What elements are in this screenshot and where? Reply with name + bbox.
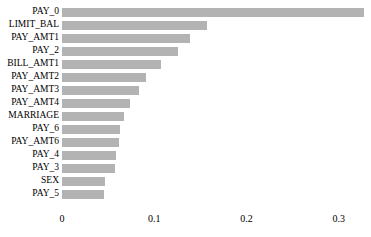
bar-fill bbox=[62, 177, 105, 186]
bar bbox=[62, 34, 190, 43]
bar-fill bbox=[62, 164, 115, 173]
bar-fill bbox=[62, 190, 104, 199]
bar bbox=[62, 73, 146, 82]
y-axis-tick-label: PAY_AMT3 bbox=[11, 85, 59, 94]
y-axis-tick-label: SEX bbox=[41, 176, 59, 185]
x-axis-tick-label: 0 bbox=[60, 213, 65, 224]
y-axis-tick-label: PAY_6 bbox=[32, 124, 59, 133]
y-axis-tick-label: BILL_AMT1 bbox=[7, 59, 59, 68]
bar bbox=[62, 21, 207, 30]
bar bbox=[62, 151, 116, 160]
y-axis-tick-label: PAY_2 bbox=[32, 46, 59, 55]
feature-importance-bar-chart: PAY_0LIMIT_BALPAY_AMT1PAY_2BILL_AMT1PAY_… bbox=[0, 0, 371, 237]
bar bbox=[62, 177, 105, 186]
bar bbox=[62, 125, 120, 134]
y-axis-tick-label: PAY_4 bbox=[32, 150, 59, 159]
y-axis-tick-label: PAY_3 bbox=[32, 163, 59, 172]
y-axis-tick-label: MARRIAGE bbox=[8, 111, 59, 120]
y-axis-tick-label: PAY_5 bbox=[32, 189, 59, 198]
bar-fill bbox=[62, 47, 178, 56]
bar bbox=[62, 86, 139, 95]
bar-fill bbox=[62, 21, 207, 30]
bar bbox=[62, 164, 115, 173]
y-axis-tick-label: LIMIT_BAL bbox=[9, 20, 59, 29]
bar bbox=[62, 8, 364, 17]
bar-fill bbox=[62, 60, 161, 69]
y-axis-tick-label: PAY_AMT6 bbox=[11, 137, 59, 146]
bar-fill bbox=[62, 86, 139, 95]
bar-fill bbox=[62, 99, 130, 108]
x-axis-tick-label: 0.1 bbox=[148, 213, 161, 224]
x-axis-tick-label: 0.3 bbox=[332, 213, 345, 224]
y-axis-tick-label: PAY_AMT1 bbox=[11, 33, 59, 42]
plot-area bbox=[62, 0, 371, 206]
bar bbox=[62, 99, 130, 108]
bar-fill bbox=[62, 138, 119, 147]
bar-fill bbox=[62, 8, 364, 17]
y-axis-tick-label: PAY_0 bbox=[32, 7, 59, 16]
bar-fill bbox=[62, 34, 190, 43]
y-axis-tick-label: PAY_AMT2 bbox=[11, 72, 59, 81]
bar bbox=[62, 112, 124, 121]
y-axis-category-labels: PAY_0LIMIT_BALPAY_AMT1PAY_2BILL_AMT1PAY_… bbox=[0, 0, 59, 206]
bar-fill bbox=[62, 151, 116, 160]
bar bbox=[62, 60, 161, 69]
x-axis: 00.10.20.3 bbox=[62, 206, 371, 237]
bar-fill bbox=[62, 125, 120, 134]
bar bbox=[62, 138, 119, 147]
y-axis-tick-label: PAY_AMT4 bbox=[11, 98, 59, 107]
bar-fill bbox=[62, 73, 146, 82]
bar-fill bbox=[62, 112, 124, 121]
bar bbox=[62, 190, 104, 199]
x-axis-tick-label: 0.2 bbox=[240, 213, 253, 224]
bar bbox=[62, 47, 178, 56]
